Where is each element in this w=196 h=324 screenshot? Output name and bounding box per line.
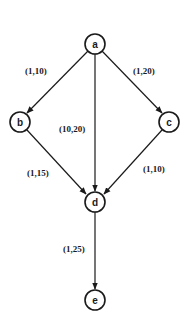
edge-a-b [27,51,88,113]
node-e: e [85,290,105,310]
node-label-b: b [17,117,23,128]
edge-label-c-d: (1,10) [143,164,165,174]
node-label-d: d [92,197,98,208]
node-label-a: a [92,39,98,50]
edge-label-b-d: (1,15) [27,168,49,178]
node-label-e: e [92,295,98,306]
node-b: b [10,112,30,132]
graph-diagram: (1,10) (1,20) (10,20) (1,15) (1,10) (1,2… [0,0,196,324]
edge-a-c [102,51,162,113]
node-d: d [85,192,105,212]
node-c: c [159,112,179,132]
node-label-c: c [166,117,172,128]
edge-label-a-b: (1,10) [25,66,47,76]
edge-label-a-d: (10,20) [59,124,85,134]
edge-b-d [27,130,86,194]
edge-label-d-e: (1,25) [63,244,85,254]
edge-label-a-c: (1,20) [133,66,155,76]
edge-c-d [104,130,162,194]
node-a: a [85,34,105,54]
